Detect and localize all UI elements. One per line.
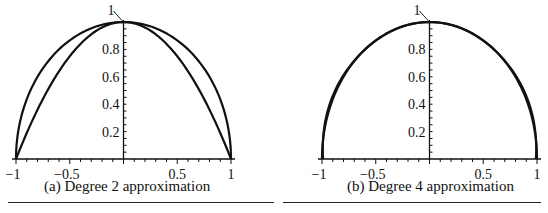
y-tick-label: 0.6 xyxy=(102,70,120,85)
y-tick-label: 0.8 xyxy=(102,42,120,57)
x-tick-label: −1 xyxy=(312,167,327,182)
y-tick-label: 0.2 xyxy=(408,125,426,140)
caption-b: (b) Degree 4 approximation xyxy=(347,178,514,195)
y-tick-label: 0.4 xyxy=(408,97,426,112)
x-tick-label: 1 xyxy=(228,167,235,182)
x-tick-label: −1 xyxy=(6,167,21,182)
y-tick-label: 1 xyxy=(108,3,115,18)
label-leader xyxy=(114,11,123,21)
y-tick-label: 0.8 xyxy=(408,42,426,57)
x-tick-label: 1 xyxy=(534,167,541,182)
y-tick-label: 0.4 xyxy=(102,97,120,112)
label-leader xyxy=(420,11,429,21)
caption-rule-a xyxy=(8,202,274,203)
y-tick-label: 1 xyxy=(414,3,421,18)
caption-a: (a) Degree 2 approximation xyxy=(44,178,210,195)
y-tick-label: 0.2 xyxy=(102,125,120,140)
caption-rule-b xyxy=(283,202,541,203)
y-tick-label: 0.6 xyxy=(408,70,426,85)
